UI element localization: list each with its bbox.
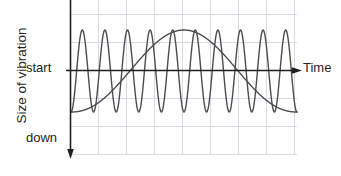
y-axis-start-tick-label: start xyxy=(26,60,51,75)
y-axis-down-direction-label: down xyxy=(26,130,57,145)
chart-background xyxy=(0,0,341,176)
y-axis-label: Size of vibration xyxy=(14,11,29,141)
x-axis-label: Time xyxy=(303,60,331,75)
vibration-graph xyxy=(0,0,341,176)
